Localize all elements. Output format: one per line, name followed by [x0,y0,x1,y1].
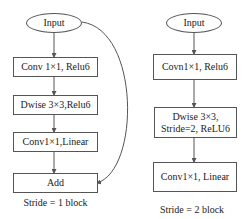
right-input-node: Input [166,13,222,33]
right-dwise-line2: Stride=2, ReLU6 [161,123,230,135]
left-block-caption: Stride = 1 block [13,197,98,208]
left-input-node: Input [26,13,82,33]
right-conv1-node: Covn1×1, Relu6 [153,54,237,80]
left-conv1-node: Conv 1×1, Relu6 [13,57,98,77]
left-add-node: Add [13,173,98,193]
left-conv2-node: Conv1×1,Linear [13,132,98,152]
right-block-caption: Stride = 2 block [150,204,234,215]
right-dwise-line1: Dwise 3×3, [172,111,218,123]
left-dwise-node: Dwise 3×3,Relu6 [13,95,98,115]
right-conv2-node: Conv1×1, Linear [153,162,237,192]
right-dwise-node: Dwise 3×3, Stride=2, ReLU6 [154,107,237,138]
